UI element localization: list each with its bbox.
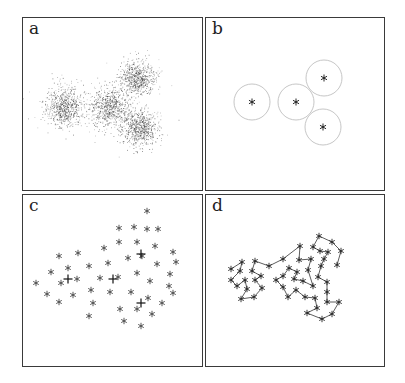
prototype-asterisk: [90, 300, 96, 306]
prototype-asterisk: [170, 290, 176, 296]
prototype-asterisk: [166, 283, 172, 289]
chain-node-asterisk: [252, 258, 258, 264]
chain-node-asterisk: [334, 262, 340, 268]
prototype-asterisk: [131, 224, 137, 230]
prototype-asterisk: [170, 249, 176, 255]
chain-node-asterisk: [258, 273, 264, 279]
prototype-asterisk: [155, 226, 161, 232]
prototype-asterisk: [33, 280, 39, 286]
chain-node-asterisk: [285, 294, 291, 300]
prototype-asterisk: [70, 292, 76, 298]
centroid-star-marker: [320, 124, 326, 131]
prototype-asterisk: [116, 239, 122, 245]
prototype-asterisk: [58, 280, 64, 286]
chain-node-asterisk: [324, 289, 330, 295]
chain-node-asterisk: [316, 233, 322, 239]
chain-node-asterisk: [310, 244, 316, 250]
prototype-asterisk: [154, 261, 160, 267]
prototype-asterisk: [101, 245, 107, 251]
prototype-asterisk: [117, 306, 123, 312]
chain-node-asterisk: [242, 277, 248, 283]
prototype-asterisk: [167, 271, 173, 277]
prototype-asterisk: [147, 278, 153, 284]
panel-b-centroids: [234, 60, 342, 145]
prototype-asterisk: [134, 239, 140, 245]
panel-d-chain: [228, 233, 344, 322]
chain-node-asterisk: [294, 269, 300, 275]
chain-node-asterisk: [293, 287, 299, 293]
centroid-star-marker: [293, 99, 299, 106]
centroid-star-marker: [321, 75, 327, 82]
panel-a-scatter-cloud: [23, 50, 180, 157]
prototype-asterisk: [65, 265, 71, 271]
chain-node-asterisk: [244, 286, 250, 292]
chain-node-asterisk: [304, 310, 310, 316]
chain-node-asterisk: [321, 256, 327, 262]
prototype-asterisk: [159, 300, 165, 306]
prototype-asterisk: [144, 208, 150, 214]
prototype-asterisk: [74, 276, 80, 282]
chain-node-asterisk: [300, 278, 306, 284]
prototype-asterisk: [56, 253, 62, 259]
chain-node-asterisk: [305, 267, 311, 273]
prototype-asterisk: [134, 306, 140, 312]
chain-node-asterisk: [310, 283, 316, 289]
centroid-star-marker: [249, 99, 255, 106]
prototype-asterisk: [97, 275, 103, 281]
chain-node-asterisk: [329, 311, 335, 317]
prototype-asterisk: [116, 225, 122, 231]
chain-node-asterisk: [324, 279, 330, 285]
prototype-asterisk: [88, 287, 94, 293]
prototype-asterisk: [128, 289, 134, 295]
prototype-asterisk: [48, 269, 54, 275]
chain-node-asterisk: [280, 256, 286, 262]
prototype-asterisk: [125, 255, 131, 261]
prototype-asterisk: [107, 289, 113, 295]
prototype-asterisk: [144, 226, 150, 232]
prototype-asterisk: [75, 250, 81, 256]
prototype-asterisk: [86, 313, 92, 319]
prototype-asterisk: [44, 291, 50, 297]
prototype-asterisk: [173, 259, 179, 265]
chain-node-asterisk: [318, 263, 324, 269]
chain-node-asterisk: [297, 243, 303, 249]
prototype-asterisk: [86, 263, 92, 269]
chain-node-asterisk: [228, 266, 234, 272]
chain-node-asterisk: [314, 305, 320, 311]
prototype-asterisk: [134, 270, 140, 276]
centroid-cross: [64, 275, 73, 284]
prototype-asterisk: [105, 260, 111, 266]
panel-c-prototypes: [33, 208, 179, 329]
prototype-asterisk: [149, 311, 155, 317]
chain-path: [231, 236, 341, 319]
centroid-cross: [137, 299, 146, 308]
chain-node-asterisk: [319, 316, 325, 322]
prototype-asterisk: [152, 243, 158, 249]
figure-plot-layer: [0, 0, 405, 383]
prototype-asterisk: [121, 318, 127, 324]
chain-node-asterisk: [291, 276, 297, 282]
prototype-asterisk: [145, 295, 151, 301]
chain-node-asterisk: [239, 259, 245, 265]
prototype-asterisk: [56, 299, 62, 305]
prototype-asterisk: [138, 323, 144, 329]
chain-node-asterisk: [249, 268, 255, 274]
chain-node-asterisk: [315, 274, 321, 280]
chain-node-asterisk: [266, 263, 272, 269]
